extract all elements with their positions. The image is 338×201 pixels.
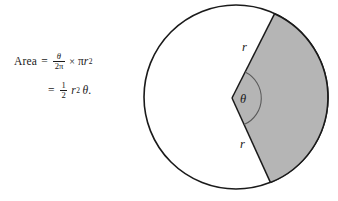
circle-sector-diagram: r r θ: [0, 0, 338, 201]
equals-sign-1: =: [41, 56, 48, 68]
r-symbol-2: r: [71, 85, 75, 97]
radius-upper-label: r: [242, 40, 247, 54]
fraction-denominator-two-pi: 2π: [53, 61, 65, 71]
one-half-fraction: 1 2: [60, 81, 67, 101]
fraction-numerator-theta: θ: [55, 52, 62, 61]
fraction-numerator-one: 1: [60, 81, 67, 90]
angle-theta-label: θ: [240, 92, 246, 106]
fraction-denominator-two: 2: [60, 90, 67, 100]
multiplication-sign: ×: [69, 57, 75, 67]
area-formula-line-1: Area = θ 2π × π r 2: [14, 52, 159, 72]
exponent-two-2: 2: [76, 87, 80, 95]
exponent-two-1: 2: [89, 58, 93, 66]
period-mark: .: [88, 85, 91, 97]
area-formula-block: Area = θ 2π × π r 2 = 1 2 r 2 θ .: [14, 52, 159, 100]
radius-lower-label: r: [240, 137, 245, 151]
equals-sign-2: =: [48, 85, 55, 97]
r-symbol-1: r: [84, 56, 88, 68]
area-formula-line-2: = 1 2 r 2 θ .: [14, 81, 159, 101]
area-label: Area: [14, 56, 37, 68]
theta-over-two-pi-fraction: θ 2π: [53, 52, 65, 72]
